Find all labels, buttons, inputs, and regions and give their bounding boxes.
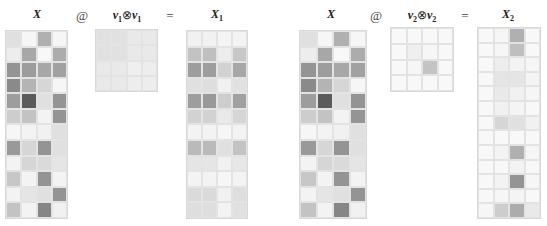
- matrix-cell: [217, 93, 232, 109]
- matrix-cell: [350, 140, 367, 156]
- matrix-cell: [21, 124, 36, 140]
- matrix-cell: [300, 109, 317, 125]
- matrix-cell: [37, 187, 52, 203]
- matrix-cell: [494, 145, 510, 160]
- matrix-cell: [21, 47, 36, 63]
- matrix-cell: [6, 202, 21, 218]
- matrix-cell: [202, 31, 217, 47]
- matrix-cell: [478, 160, 494, 175]
- matrix-cell: [478, 189, 494, 204]
- matrix-cell: [6, 62, 21, 78]
- matrix-cell: [478, 130, 494, 145]
- matrix-cell: [300, 47, 317, 63]
- matrix-cell: [478, 145, 494, 160]
- matrix-cell: [6, 156, 21, 172]
- matrix-cell: [217, 78, 232, 94]
- matrix-cell: [202, 78, 217, 94]
- matrix-cell: [350, 187, 367, 203]
- matrix-cell: [202, 156, 217, 172]
- matrix-cell: [300, 93, 317, 109]
- matrix-cell: [509, 174, 525, 189]
- matrix-cell: [202, 187, 217, 203]
- matrix-cell: [407, 28, 423, 44]
- matrix-cell: [422, 75, 438, 91]
- v2-subscript-2: 2: [432, 15, 436, 24]
- matrix-cell: [187, 31, 202, 47]
- matrix-x1-label: X1: [205, 7, 229, 23]
- matrix-cell: [407, 44, 423, 60]
- matrix-cell: [494, 189, 510, 204]
- matrix-cell: [350, 109, 367, 125]
- matrix-cell: [317, 62, 334, 78]
- matmul-operator-left: @: [72, 8, 92, 24]
- matrix-cell: [21, 202, 36, 218]
- matrix-cell: [350, 31, 367, 47]
- x2-subscript: 2: [510, 14, 514, 23]
- otimes-symbol: ⊗: [122, 8, 132, 22]
- matrix-cell: [350, 124, 367, 140]
- matrix-cell: [509, 72, 525, 87]
- matrix-cell: [525, 174, 541, 189]
- matrix-cell: [142, 45, 157, 60]
- matrix-cell: [187, 156, 202, 172]
- matrix-cell: [333, 140, 350, 156]
- matrix-cell: [333, 171, 350, 187]
- matrix-cell: [317, 31, 334, 47]
- matrix-cell: [494, 28, 510, 43]
- matrix-cell: [525, 57, 541, 72]
- matrix-cell: [525, 28, 541, 43]
- matrix-cell: [232, 171, 247, 187]
- matrix-x2-label: X2: [496, 7, 520, 23]
- matmul-operator-right: @: [366, 8, 386, 24]
- matrix-x-label-left: X: [26, 7, 48, 22]
- matrix-cell: [438, 28, 454, 44]
- matrix-cell: [494, 203, 510, 218]
- matrix-cell: [232, 31, 247, 47]
- matrix-cell: [333, 187, 350, 203]
- matrix-cell: [111, 45, 126, 60]
- matrix-cell: [37, 93, 52, 109]
- matrix-cell: [300, 140, 317, 156]
- x2-symbol: X: [502, 7, 510, 21]
- matrix-cell: [391, 60, 407, 76]
- matrix-cell: [333, 124, 350, 140]
- matrix-cell: [142, 76, 157, 91]
- matrix-cell: [525, 101, 541, 116]
- matrix-cell: [21, 187, 36, 203]
- matrix-cell: [187, 202, 202, 218]
- matrix-cell: [333, 202, 350, 218]
- matrix-cell: [21, 171, 36, 187]
- matrix-cell: [407, 60, 423, 76]
- matrix-cell: [478, 72, 494, 87]
- matrix-cell: [232, 47, 247, 63]
- matrix-cell: [333, 156, 350, 172]
- matrix-cell: [37, 31, 52, 47]
- matrix-cell: [350, 93, 367, 109]
- matrix-cell: [232, 187, 247, 203]
- equals-sign-right: =: [457, 8, 473, 24]
- matrix-cell: [52, 140, 67, 156]
- matrix-cell: [187, 171, 202, 187]
- matrix-cell: [494, 101, 510, 116]
- matrix-cell: [202, 124, 217, 140]
- matrix-cell: [96, 30, 111, 45]
- otimes-symbol-right: ⊗: [417, 8, 427, 22]
- matrix-cell: [333, 93, 350, 109]
- matrix-cell: [494, 43, 510, 58]
- matrix-cell: [300, 78, 317, 94]
- figure-caption: [150, 221, 450, 226]
- matrix-cell: [217, 109, 232, 125]
- matrix-cell: [317, 171, 334, 187]
- matrix-cell: [494, 116, 510, 131]
- matrix-cell: [509, 101, 525, 116]
- matrix-cell: [494, 86, 510, 101]
- matrix-cell: [509, 86, 525, 101]
- matrix-cell: [6, 109, 21, 125]
- x1-subscript: 1: [219, 14, 223, 23]
- matrix-cell: [21, 109, 36, 125]
- matrix-cell: [37, 140, 52, 156]
- matrix-cell: [52, 187, 67, 203]
- matrix-cell: [525, 160, 541, 175]
- matrix-cell: [217, 187, 232, 203]
- matrix-cell: [187, 109, 202, 125]
